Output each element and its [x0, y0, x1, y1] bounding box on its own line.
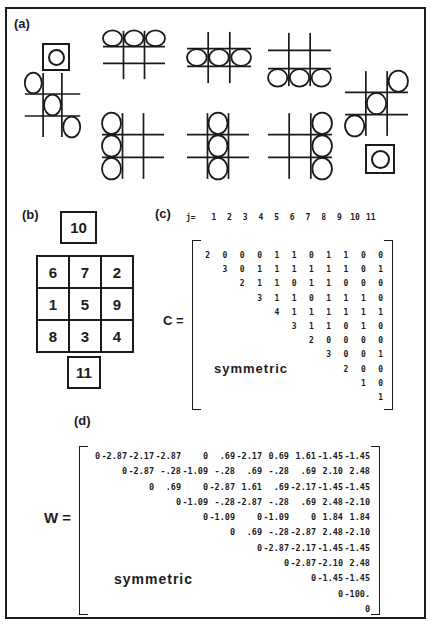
matrix-c-symmetric-label: symmetric — [214, 361, 288, 376]
matrix-cell: 1 — [337, 306, 354, 320]
matrix-cell: .69 — [154, 480, 181, 495]
matrix-cell: .69 — [235, 464, 262, 479]
matrix-cell: 0 — [154, 495, 181, 510]
tictactoe-board-win-row-top — [101, 30, 167, 80]
matrix-cell: 3 — [285, 320, 302, 334]
matrix-w-values: 0-2.87-2.17-2.870.69-2.170.691.61-1.45-1… — [73, 449, 370, 617]
matrix-cell — [235, 602, 262, 617]
matrix-cell — [337, 377, 354, 391]
matrix-cell — [268, 320, 285, 334]
matrix-cell: 0 — [235, 510, 262, 525]
matrix-cell — [127, 541, 154, 556]
matrix-cell: -1.45 — [343, 571, 370, 586]
tictactoe-board-win-col-right — [266, 112, 334, 180]
matrix-cell — [73, 525, 100, 540]
matrix-cell — [199, 277, 216, 291]
matrix-cell: 2 — [199, 249, 216, 263]
matrix-cell: -.28 — [262, 464, 289, 479]
matrix-cell: -.28 — [262, 525, 289, 540]
matrix-cell — [320, 377, 337, 391]
matrix-cell — [268, 377, 285, 391]
column-index-label: 10 — [347, 213, 363, 222]
matrix-cell: 0 — [251, 249, 268, 263]
matrix-cell: 1 — [268, 277, 285, 291]
matrix-cell — [216, 320, 233, 334]
panel-d-label: (d) — [74, 413, 91, 428]
matrix-cell — [355, 391, 372, 405]
column-index-label: 1 — [206, 213, 222, 222]
o-mark-icon — [312, 69, 331, 86]
matrix-cell: 1 — [320, 320, 337, 334]
matrix-cell: 1 — [285, 292, 302, 306]
matrix-cell: 0 — [320, 334, 337, 348]
matrix-cell: -2.10 — [316, 556, 343, 571]
magic-square-top-box: 10 — [60, 211, 97, 244]
matrix-cell: 1 — [320, 249, 337, 263]
matrix-cell: 0 — [372, 249, 389, 263]
matrix-row: 0-1.09-.28-2.87-.28.692.48-2.10 — [73, 495, 370, 510]
column-index-label: 4 — [253, 213, 269, 222]
matrix-cell — [216, 306, 233, 320]
matrix-cell — [100, 510, 127, 525]
matrix-cell: -1.09 — [181, 464, 208, 479]
matrix-cell — [262, 571, 289, 586]
matrix-cell: 1 — [320, 292, 337, 306]
matrix-cell: 0 — [262, 556, 289, 571]
boxed-circle-left — [42, 43, 70, 71]
magic-cell: 7 — [70, 257, 100, 287]
matrix-cell: 1 — [372, 263, 389, 277]
o-mark-icon — [44, 95, 61, 116]
matrix-cell: -1.45 — [343, 541, 370, 556]
matrix-cell — [181, 525, 208, 540]
matrix-cell — [208, 602, 235, 617]
o-mark-icon — [312, 113, 332, 135]
matrix-cell — [127, 587, 154, 602]
matrix-cell: 0 — [372, 320, 389, 334]
matrix-row: 20001101100 — [199, 249, 389, 263]
matrix-cell — [73, 602, 100, 617]
matrix-cell: 2.48 — [316, 525, 343, 540]
o-mark-icon — [48, 49, 65, 66]
matrix-cell — [268, 391, 285, 405]
matrix-cell: 1 — [372, 348, 389, 362]
matrix-cell: -2.17 — [289, 480, 316, 495]
tictactoe-board-win-row-bottom — [266, 32, 333, 87]
matrix-cell: 1 — [303, 263, 320, 277]
o-mark-icon — [290, 69, 309, 86]
matrix-cell: -.28 — [208, 464, 235, 479]
matrix-cell: 0 — [234, 249, 251, 263]
matrix-cell — [208, 556, 235, 571]
matrix-row: 1 — [199, 391, 389, 405]
matrix-cell: 2 — [234, 277, 251, 291]
matrix-cell — [100, 541, 127, 556]
matrix-cell: 1 — [285, 306, 302, 320]
matrix-c-column-header: j= 1234567891011 — [186, 213, 379, 222]
j-equals-label: j= — [186, 213, 206, 222]
matrix-cell: 1 — [303, 320, 320, 334]
matrix-cell: -2.87 — [100, 449, 127, 464]
o-mark-icon — [102, 113, 121, 135]
o-mark-icon — [345, 115, 364, 136]
matrix-cell: 1 — [355, 292, 372, 306]
column-index-label: 3 — [237, 213, 253, 222]
matrix-row: 211011000 — [199, 277, 389, 291]
magic-cell: 6 — [38, 257, 68, 287]
panel-a-label: (a) — [14, 16, 30, 31]
matrix-cell: 0 — [127, 480, 154, 495]
magic-cell: 8 — [38, 321, 68, 351]
tictactoe-board-win-row-middle — [185, 31, 253, 84]
matrix-cell — [289, 602, 316, 617]
matrix-cell: 1 — [268, 263, 285, 277]
matrix-cell — [199, 306, 216, 320]
matrix-cell: -1.09 — [208, 510, 235, 525]
o-mark-icon — [187, 49, 207, 66]
boxed-circle-right — [365, 144, 395, 174]
matrix-cell: 0 — [285, 277, 302, 291]
matrix-cell — [100, 587, 127, 602]
matrix-cell — [303, 391, 320, 405]
matrix-cell: 0 — [343, 602, 370, 617]
matrix-cell: 0 — [372, 292, 389, 306]
matrix-cell: -.28 — [262, 495, 289, 510]
matrix-cell: 1 — [285, 249, 302, 263]
matrix-cell — [337, 391, 354, 405]
